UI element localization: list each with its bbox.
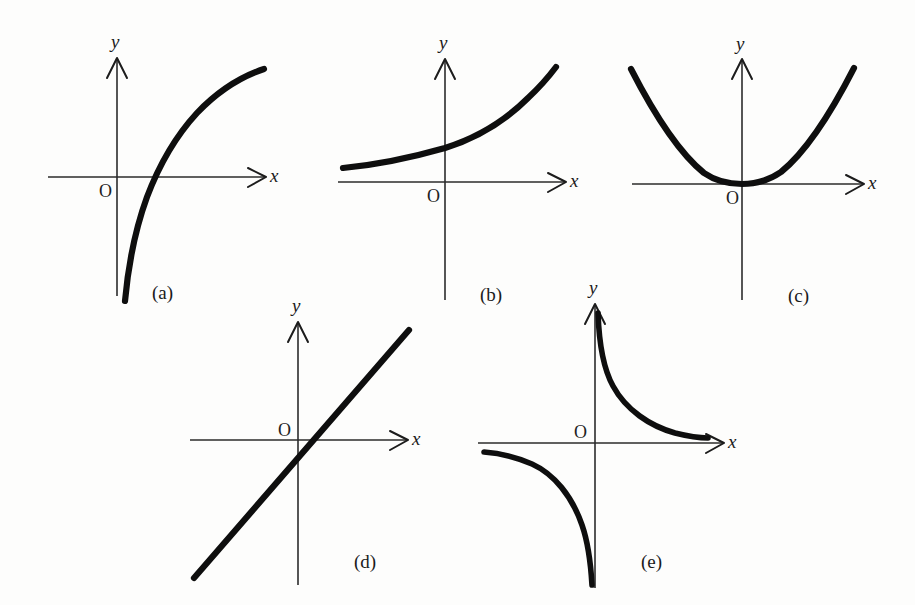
panel-a-y-axis-label: y	[111, 32, 119, 51]
panel-e-y-axis-label: y	[589, 278, 597, 297]
panel-d-linear-curve	[194, 330, 409, 578]
panel-b-origin-label: O	[427, 187, 440, 205]
panel-a-log-curve	[125, 69, 264, 301]
panel-e: x y O (e)	[460, 280, 780, 605]
panel-d-caption: (d)	[354, 552, 376, 571]
panel-c-origin-label: O	[726, 189, 739, 207]
panel-b-y-axis-label: y	[439, 33, 447, 52]
panel-e-hyperbola-branch-positive	[598, 313, 708, 438]
panel-b: x y O (b)	[300, 0, 600, 310]
panel-c: x y O (c)	[600, 0, 915, 310]
panel-d-y-axis-label: y	[292, 296, 300, 315]
panel-b-x-axis-label: x	[570, 171, 578, 190]
panel-c-y-axis-label: y	[736, 34, 744, 53]
panel-e-origin-label: O	[574, 423, 587, 441]
panel-d-origin-label: O	[278, 421, 291, 439]
panel-a-origin-label: O	[99, 182, 112, 200]
panel-e-caption: (e)	[641, 552, 662, 571]
panel-a-x-axis-label: x	[270, 166, 278, 185]
panel-d-x-axis-label: x	[412, 429, 420, 448]
panel-c-caption: (c)	[788, 286, 809, 305]
panel-e-x-axis-label: x	[728, 432, 736, 451]
panel-e-hyperbola-branch-negative	[484, 452, 592, 585]
panel-b-exp-curve	[343, 67, 556, 168]
figure-canvas: x y O (a) x y O (b)	[0, 0, 915, 605]
panel-c-x-axis-label: x	[868, 173, 876, 192]
panel-a: x y O (a)	[0, 0, 300, 310]
panel-d: x y O (d)	[150, 280, 460, 605]
